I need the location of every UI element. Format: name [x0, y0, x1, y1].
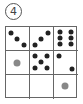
cell-r1-c3 — [54, 27, 78, 51]
cell-r1-c1 — [6, 27, 30, 51]
cell-r3-c3 — [54, 75, 78, 99]
gray-dot-icon — [62, 83, 69, 90]
dot-icon — [39, 37, 44, 42]
dot-icon — [58, 30, 63, 35]
puzzle-number-label: 4 — [5, 3, 22, 20]
dot-icon — [33, 43, 38, 48]
dot-icon — [45, 54, 50, 59]
cell-r3-c2 — [30, 75, 54, 99]
dot-icon — [9, 31, 14, 36]
dot-icon — [57, 54, 62, 59]
dice-pattern-grid — [5, 26, 77, 98]
cell-r1-c2 — [30, 27, 54, 51]
dot-icon — [22, 43, 27, 48]
cell-r2-c2 — [30, 51, 54, 75]
dot-icon — [58, 36, 63, 41]
dot-icon — [33, 54, 38, 59]
gray-dot-icon — [14, 60, 21, 67]
dot-icon — [45, 66, 50, 71]
dot-icon — [33, 66, 38, 71]
dot-icon — [58, 42, 63, 47]
cell-r2-c3 — [54, 51, 78, 75]
cell-r3-c1 — [6, 75, 30, 99]
dot-icon — [69, 36, 74, 41]
dot-icon — [70, 67, 75, 72]
dot-icon — [69, 30, 74, 35]
dot-icon — [39, 60, 44, 65]
dot-icon — [69, 42, 74, 47]
cell-r2-c1 — [6, 51, 30, 75]
dot-icon — [15, 37, 20, 42]
dot-icon — [46, 31, 51, 36]
